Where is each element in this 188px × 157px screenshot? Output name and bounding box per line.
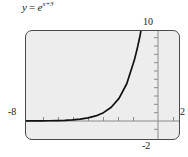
graph-plot	[26, 31, 180, 140]
figure-container: y=ex+3	[0, 0, 188, 157]
equation-relation: =	[29, 1, 35, 13]
equation-caption: y=ex+3	[22, 1, 54, 13]
y-axis-ticks	[154, 38, 158, 130]
equation-exponent: x+3	[43, 0, 54, 8]
exponent-constant: 3	[50, 0, 54, 8]
y-min-label: -2	[142, 140, 150, 151]
equation-lhs: y	[22, 1, 27, 13]
x-min-label: -8	[8, 106, 16, 117]
y-max-label: 10	[143, 16, 153, 27]
exponential-curve	[26, 31, 141, 121]
x-max-label: 2	[180, 106, 185, 117]
axes-group	[26, 31, 180, 140]
calculator-viewport	[25, 30, 180, 140]
